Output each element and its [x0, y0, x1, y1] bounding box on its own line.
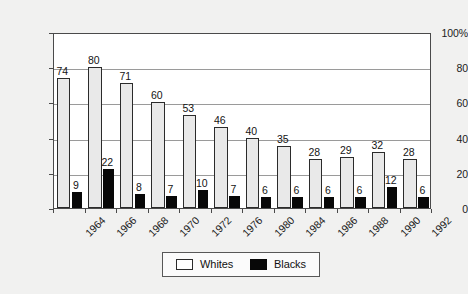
- data-label-blacks: 6: [316, 185, 340, 195]
- data-label-blacks: 7: [158, 184, 182, 194]
- data-label-whites: 28: [302, 147, 326, 157]
- data-label-blacks: 10: [190, 178, 214, 188]
- bar-whites: [340, 157, 354, 208]
- data-label-blacks: 22: [95, 157, 119, 167]
- x-tick-mark: [179, 209, 180, 213]
- data-label-blacks: 7: [221, 184, 245, 194]
- x-tick-label: 1964: [82, 214, 107, 239]
- x-tick-mark: [305, 209, 306, 213]
- bar-whites: [183, 115, 197, 208]
- legend-swatch-whites-icon: [176, 259, 193, 270]
- x-tick-mark: [211, 209, 212, 213]
- chart-legend: Whites Blacks: [162, 252, 320, 277]
- bar-whites: [88, 67, 102, 208]
- plot-area: [53, 33, 431, 209]
- x-tick-label: 1976: [240, 214, 265, 239]
- chart-figure: 020406080100% 19641966196819701972197619…: [0, 0, 468, 294]
- data-label-whites: 46: [208, 115, 232, 125]
- gridline: [54, 104, 430, 105]
- x-tick-label: 1992: [429, 214, 454, 239]
- x-tick-mark: [337, 209, 338, 213]
- x-tick-mark: [431, 209, 432, 213]
- data-label-whites: 71: [113, 71, 137, 81]
- bar-blacks: [229, 196, 240, 208]
- bar-blacks: [166, 196, 177, 208]
- data-label-whites: 40: [239, 126, 263, 136]
- bar-blacks: [387, 187, 398, 208]
- x-tick-label: 1980: [271, 214, 296, 239]
- bar-blacks: [135, 194, 146, 208]
- bar-whites: [277, 146, 291, 208]
- data-label-blacks: 6: [253, 185, 277, 195]
- data-label-whites: 29: [334, 145, 358, 155]
- data-label-whites: 60: [145, 90, 169, 100]
- x-tick-label: 1990: [397, 214, 422, 239]
- bar-blacks: [418, 197, 429, 208]
- data-label-whites: 53: [176, 103, 200, 113]
- x-tick-mark: [148, 209, 149, 213]
- data-label-blacks: 6: [410, 185, 434, 195]
- data-label-blacks: 9: [64, 180, 88, 190]
- x-tick-mark: [116, 209, 117, 213]
- bar-blacks: [198, 190, 209, 208]
- x-tick-mark: [400, 209, 401, 213]
- data-label-blacks: 12: [379, 175, 403, 185]
- x-tick-label: 1988: [366, 214, 391, 239]
- legend-swatch-blacks-icon: [250, 259, 267, 270]
- data-label-whites: 32: [365, 140, 389, 150]
- legend-label-blacks: Blacks: [274, 259, 306, 270]
- legend-label-whites: Whites: [200, 259, 233, 270]
- x-tick-mark: [368, 209, 369, 213]
- bar-whites: [403, 159, 417, 208]
- bar-blacks: [72, 192, 83, 208]
- bar-whites: [246, 138, 260, 208]
- x-tick-label: 1972: [208, 214, 233, 239]
- bar-blacks: [261, 197, 272, 208]
- data-label-whites: 35: [271, 134, 295, 144]
- data-label-whites: 28: [397, 147, 421, 157]
- data-label-blacks: 8: [127, 182, 151, 192]
- data-label-whites: 74: [50, 66, 74, 76]
- bar-blacks: [324, 197, 335, 208]
- x-tick-label: 1970: [177, 214, 202, 239]
- bar-whites: [214, 127, 228, 208]
- legend-entry-blacks: Blacks: [250, 259, 306, 270]
- bar-whites: [309, 159, 323, 208]
- x-tick-label: 1968: [145, 214, 170, 239]
- data-label-whites: 80: [82, 55, 106, 65]
- x-tick-mark: [53, 209, 54, 213]
- gridline: [54, 69, 430, 70]
- bar-blacks: [355, 197, 366, 208]
- bar-blacks: [292, 197, 303, 208]
- x-tick-label: 1984: [303, 214, 328, 239]
- x-tick-mark: [85, 209, 86, 213]
- data-label-blacks: 6: [347, 185, 371, 195]
- x-tick-label: 1966: [114, 214, 139, 239]
- x-tick-label: 1986: [334, 214, 359, 239]
- legend-entry-whites: Whites: [176, 259, 233, 270]
- bar-blacks: [103, 169, 114, 208]
- x-tick-mark: [274, 209, 275, 213]
- data-label-blacks: 6: [284, 185, 308, 195]
- x-tick-mark: [242, 209, 243, 213]
